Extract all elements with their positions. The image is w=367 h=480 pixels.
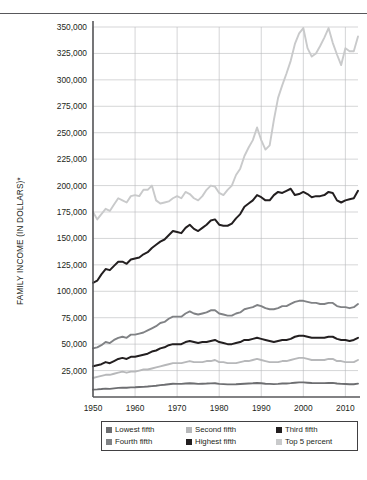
series-line (93, 382, 358, 389)
legend-swatch-icon (186, 439, 192, 445)
x-tick-labels: 1950196019701980199020002010 (84, 403, 355, 413)
series-line (93, 189, 358, 283)
legend-swatch-icon (276, 427, 282, 433)
series-line (93, 358, 358, 378)
y-tick-label: 50,000 (61, 339, 87, 349)
y-tick-label: 150,000 (57, 233, 88, 243)
x-tick-label: 1980 (210, 403, 229, 413)
legend-item-second-fifth[interactable]: Second fifth (186, 425, 276, 435)
legend-label: Fourth fifth (115, 437, 152, 447)
y-tick-label: 225,000 (57, 154, 88, 164)
legend-label: Top 5 percent (285, 437, 332, 447)
chart-plot-area: 25,00050,00075,000100,000125,000150,0001… (0, 0, 367, 420)
legend-label: Third fifth (285, 425, 318, 435)
x-tick-label: 1970 (168, 403, 187, 413)
y-tick-label: 300,000 (57, 75, 88, 85)
series-line (93, 301, 358, 349)
chart-page: FAMILY INCOME (IN DOLLARS)* 25,00050,000… (0, 0, 367, 480)
legend-item-lowest-fifth[interactable]: Lowest fifth (106, 425, 186, 435)
x-tick-label: 1990 (252, 403, 271, 413)
legend-swatch-icon (106, 427, 112, 433)
y-tick-label: 175,000 (57, 207, 88, 217)
chart-legend: Lowest fifth Second fifth Third fifth Fo… (101, 421, 358, 451)
series-lines (93, 28, 358, 390)
y-tick-label: 325,000 (57, 48, 88, 58)
y-tick-label: 125,000 (57, 260, 88, 270)
legend-item-fourth-fifth[interactable]: Fourth fifth (106, 437, 186, 447)
legend-swatch-icon (106, 439, 112, 445)
x-tick-label: 1950 (84, 403, 103, 413)
y-tick-label: 25,000 (61, 366, 87, 376)
legend-label: Highest fifth (195, 437, 236, 447)
series-line (93, 28, 358, 219)
legend-item-highest-fifth[interactable]: Highest fifth (186, 437, 276, 447)
y-tick-label: 75,000 (61, 313, 87, 323)
legend-swatch-icon (276, 439, 282, 445)
legend-swatch-icon (186, 427, 192, 433)
legend-item-third-fifth[interactable]: Third fifth (276, 425, 318, 435)
x-tick-label: 2000 (294, 403, 313, 413)
x-tick-label: 1960 (126, 403, 145, 413)
line-chart-svg: 25,00050,00075,000100,000125,000150,0001… (0, 0, 367, 420)
legend-row-1: Lowest fifth Second fifth Third fifth (106, 424, 353, 436)
y-tick-label: 200,000 (57, 181, 88, 191)
x-tick-label: 2010 (336, 403, 355, 413)
legend-row-2: Fourth fifth Highest fifth Top 5 percent (106, 436, 353, 448)
y-tick-label: 250,000 (57, 128, 88, 138)
legend-label: Second fifth (195, 425, 236, 435)
y-tick-label: 100,000 (57, 286, 88, 296)
y-gridlines (93, 27, 358, 371)
legend-item-top-5-percent[interactable]: Top 5 percent (276, 437, 332, 447)
axis-lines (93, 21, 360, 397)
legend-label: Lowest fifth (115, 425, 154, 435)
y-tick-label: 275,000 (57, 101, 88, 111)
y-tick-labels: 25,00050,00075,000100,000125,000150,0001… (57, 22, 88, 376)
y-tick-label: 350,000 (57, 22, 88, 32)
